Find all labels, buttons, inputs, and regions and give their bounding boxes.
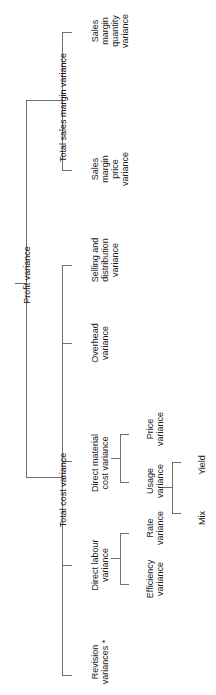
node-direct-labour-variance-line-1: variance [100, 530, 110, 600]
connector-direct-labour-spine [120, 533, 121, 584]
connector-root-to-cost [26, 477, 62, 478]
connector-direct-material-spine [120, 434, 121, 483]
connector-cost-to-revision [62, 675, 72, 676]
node-root-line-0: Profit variance [22, 230, 32, 320]
connector-direct-material-stub [111, 458, 120, 459]
node-overhead-variance-line-0: Overhead [90, 316, 100, 370]
connector-usage-to-yield [172, 462, 181, 463]
node-mix-line-0: Mix [197, 503, 207, 533]
node-direct-material-cost-variance-line-1: cost variance [100, 426, 110, 500]
node-usage-variance-line-0: Usage [145, 457, 155, 505]
node-efficiency-variance-line-1: variance [155, 551, 165, 607]
connector-direct-labour-stub [111, 558, 120, 559]
node-price-variance-line-1: variance [155, 406, 165, 452]
node-sales-margin-price-variance-line-3: variance [120, 143, 130, 195]
node-sales-margin-price-variance-line-2: price [110, 143, 120, 195]
node-total-sales-margin-variance-line-0: Total sales margin variance [58, 30, 68, 185]
node-rate-variance-line-1: variance [155, 505, 165, 551]
node-sales-margin-quantity-variance-line-1: margin [100, 5, 110, 57]
node-revision-variances-line-0: Revision [90, 632, 100, 692]
node-rate-variance-line-0: Rate [145, 505, 155, 551]
node-sales-margin-price-variance-line-0: Sales [90, 143, 100, 195]
node-efficiency-variance-line-0: Efficiency [145, 551, 155, 607]
connector-cost-to-overhead [62, 343, 72, 344]
node-selling-and-distribution-variance-line-0: Selling and [90, 228, 100, 292]
connector-usage-spine [172, 462, 173, 513]
connector-root-to-sales-margin [26, 100, 62, 101]
connector-direct-material-to-price [120, 434, 129, 435]
node-sales-margin-quantity-variance-line-3: variance [120, 5, 130, 57]
variance-tree-diagram: Profit variance Total sales margin varia… [0, 0, 216, 695]
node-sales-margin-quantity-variance-line-0: Sales [90, 5, 100, 57]
node-usage-variance-line-1: variance [155, 457, 165, 505]
node-revision-variances-line-1: variances * [100, 632, 110, 692]
node-direct-labour-variance-line-0: Direct labour [90, 530, 100, 600]
connector-direct-labour-to-efficiency [120, 584, 129, 585]
node-sales-margin-price-variance-line-1: margin [100, 143, 110, 195]
node-sales-margin-quantity-variance-line-2: quantity [110, 5, 120, 57]
node-selling-and-distribution-variance-line-1: distribution [100, 228, 110, 292]
node-yield-line-0: Yield [197, 448, 207, 482]
connector-cost-to-direct-labour [62, 565, 72, 566]
node-overhead-variance-line-1: variance [100, 316, 110, 370]
connector-cost-to-selling-distribution [62, 265, 72, 266]
node-total-cost-variance-line-0: Total cost variance [58, 435, 68, 545]
node-selling-and-distribution-variance-line-2: variance [110, 228, 120, 292]
connector-usage-to-mix [172, 513, 181, 514]
node-direct-material-cost-variance-line-0: Direct material [90, 426, 100, 500]
node-price-variance-line-0: Price [145, 406, 155, 452]
connector-direct-material-to-usage [120, 482, 129, 483]
connector-usage-stub [163, 487, 172, 488]
connector-direct-labour-to-rate [120, 533, 129, 534]
